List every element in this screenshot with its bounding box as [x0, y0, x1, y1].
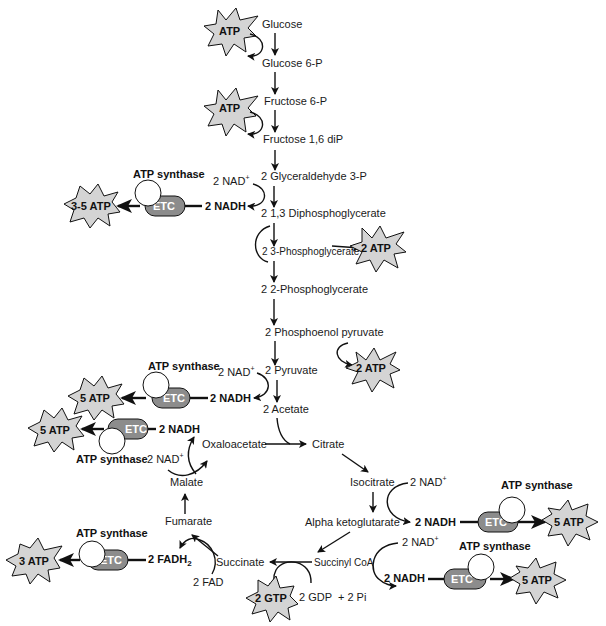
metabolite-3-phosphoglycerate: 2 3-Phosphoglycerate	[262, 246, 360, 257]
atp-synthase-icon	[79, 541, 105, 567]
atp-synthase-icon	[468, 554, 494, 580]
nad-plus-label: 2 NAD+	[147, 452, 184, 465]
citric-acid-cycle: Oxaloacetate Citrate Isocitrate Alpha ke…	[165, 418, 400, 568]
etc-unit-malate: 2 NADH ETC 5 ATP ATP synthase 2 NAD+	[28, 408, 207, 476]
atp-synthase-label: ATP synthase	[76, 527, 148, 539]
curved-arrow	[337, 343, 352, 365]
nadh-label: 2 NADH	[159, 423, 200, 435]
gtp-star-unit: 2 GTP 2 GDP + 2 Pi	[246, 562, 366, 622]
atp-yield-label: 2 ATP	[361, 242, 391, 254]
metabolite-fumarate: Fumarate	[165, 515, 212, 527]
gtp-yield-label: 2 GTP	[255, 592, 287, 604]
nadh-label: 2 NADH	[205, 200, 246, 212]
atp-label: ATP	[219, 25, 240, 37]
metabolite-phosphoenolpyruvate: 2 Phosphoenol pyruvate	[265, 326, 384, 338]
metabolite-glyceraldehyde-3p: 2 Glyceraldehyde 3-P	[261, 170, 367, 182]
metabolite-succinate: Succinate	[216, 556, 264, 568]
atp-yield-label: 5 ATP	[554, 516, 584, 528]
nad-plus-label: 2 NAD+	[218, 365, 255, 378]
curved-arrow	[188, 437, 196, 474]
metabolite-citrate: Citrate	[312, 438, 344, 450]
curved-arrow	[274, 562, 311, 586]
metabolite-alpha-ketoglutarate: Alpha ketoglutarate	[305, 516, 400, 528]
gdp-pi-label: 2 GDP + 2 Pi	[299, 591, 366, 603]
etc-unit-glycolysis: ATP synthase 2 NAD+ 2 NADH ETC 3-5 ATP	[64, 168, 264, 228]
atp-star-2-atp-substrate-2: 2 ATP	[337, 343, 400, 392]
etc-label: ETC	[163, 392, 185, 404]
curved-arrow	[248, 184, 264, 206]
atp-synthase-icon	[135, 180, 161, 206]
nadh-label: 2 NADH	[210, 392, 251, 404]
atp-synthase-icon	[499, 497, 525, 523]
atp-synthase-label: ATP synthase	[133, 168, 205, 180]
nad-plus-label: 2 NAD+	[213, 174, 250, 187]
nad-plus-label: 2 NAD+	[410, 475, 447, 488]
metabolite-fructose-6p: Fructose 6-P	[264, 95, 327, 107]
atp-yield-label: 3 ATP	[19, 555, 49, 567]
curved-arrow	[254, 373, 268, 398]
nadh-label: 2 NADH	[415, 516, 456, 528]
etc-unit-pyruvate: ATP synthase 2 NAD+ 2 NADH ETC 5 ATP	[68, 360, 268, 420]
atp-label: ATP	[219, 102, 240, 114]
fad-label: 2 FAD	[193, 576, 224, 588]
etc-label: ETC	[451, 573, 473, 585]
metabolite-2-phosphoglycerate: 2 2-Phosphoglycerate	[261, 283, 368, 295]
nad-plus-label: 2 NAD+	[402, 535, 439, 548]
atp-star-fructose: ATP	[204, 88, 263, 136]
atp-yield-label: 2 ATP	[356, 362, 386, 374]
fadh2-label: 2 FADH2	[148, 553, 192, 568]
etc-unit-succinate: 2 FAD 2 FADH2 ETC ATP synthase 3 ATP	[6, 527, 224, 588]
atp-synthase-icon	[143, 372, 169, 398]
curved-arrow	[277, 418, 290, 444]
arrow	[318, 532, 350, 552]
metabolite-succinyl-coa: Succinyl CoA	[314, 557, 374, 568]
arrow	[342, 454, 368, 472]
atp-yield-label: 3-5 ATP	[71, 200, 111, 212]
metabolite-malate: Malate	[170, 476, 203, 488]
atp-synthase-label: ATP synthase	[501, 479, 573, 491]
atp-yield-label: 5 ATP	[40, 424, 70, 436]
atp-synthase-icon	[99, 428, 125, 454]
atp-star-glucose: ATP	[204, 8, 263, 56]
respiration-diagram: Glucose Glucose 6-P Fructose 6-P Fructos…	[0, 0, 606, 626]
metabolite-isocitrate: Isocitrate	[350, 476, 395, 488]
atp-synthase-label: ATP synthase	[76, 453, 148, 465]
metabolite-pyruvate: 2 Pyruvate	[265, 364, 318, 376]
atp-yield-label: 5 ATP	[522, 574, 552, 586]
atp-synthase-label: ATP synthase	[148, 360, 220, 372]
atp-synthase-label: ATP synthase	[459, 540, 531, 552]
atp-yield-label: 5 ATP	[80, 392, 110, 404]
nadh-label: 2 NADH	[384, 572, 425, 584]
glycolysis-pathway: Glucose Glucose 6-P Fructose 6-P Fructos…	[261, 18, 386, 415]
etc-unit-alpha-ketoglutarate: 2 NAD+ 2 NADH ATP synthase ETC 5 ATP	[373, 535, 566, 604]
metabolite-glucose: Glucose	[262, 18, 302, 30]
metabolite-acetate: 2 Acetate	[263, 403, 309, 415]
metabolite-13-diphosphoglycerate: 2 1,3 Diphosphoglycerate	[261, 207, 386, 219]
etc-label: ETC	[125, 423, 147, 435]
metabolite-fructose-16-dip: Fructose 1,6 diP	[263, 133, 343, 145]
metabolite-glucose-6p: Glucose 6-P	[262, 57, 323, 69]
metabolite-oxaloacetate: Oxaloacetate	[202, 438, 267, 450]
